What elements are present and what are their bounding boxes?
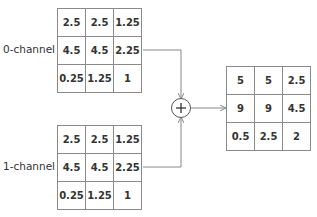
matrix-cell: 2.5	[86, 126, 114, 154]
matrix-cell: 2.25	[114, 154, 142, 182]
channel-1-matrix: 2.5 2.5 1.25 4.5 4.5 2.25 0.25 1.25 1	[57, 125, 142, 210]
matrix-cell: 4.5	[58, 154, 86, 182]
matrix-cell: 4.5	[86, 154, 114, 182]
matrix-cell: 2.5	[58, 126, 86, 154]
matrix-cell: 0.25	[58, 182, 86, 210]
output-matrix: 5 5 2.5 9 9 4.5 0.5 2.5 2	[226, 66, 311, 151]
matrix-cell: 0.25	[58, 65, 86, 93]
matrix-cell: 2.25	[114, 37, 142, 65]
matrix-cell: 4.5	[58, 37, 86, 65]
matrix-cell: 9	[255, 95, 283, 123]
matrix-cell: 2.5	[255, 123, 283, 151]
channel-0-matrix: 2.5 2.5 1.25 4.5 4.5 2.25 0.25 1.25 1	[57, 8, 142, 93]
matrix-cell: 2.5	[283, 67, 311, 95]
matrix-cell: 1	[114, 182, 142, 210]
matrix-cell: 1	[114, 65, 142, 93]
matrix-cell: 1.25	[114, 126, 142, 154]
matrix-cell: 9	[227, 95, 255, 123]
matrix-cell: 1.25	[86, 65, 114, 93]
matrix-cell: 4.5	[86, 37, 114, 65]
channel-1-label: 1-channel	[3, 160, 55, 172]
matrix-cell: 2.5	[86, 9, 114, 37]
matrix-cell: 1.25	[114, 9, 142, 37]
matrix-cell: 1.25	[86, 182, 114, 210]
matrix-cell: 5	[227, 67, 255, 95]
matrix-cell: 2	[283, 123, 311, 151]
matrix-cell: 4.5	[283, 95, 311, 123]
matrix-cell: 0.5	[227, 123, 255, 151]
matrix-cell: 5	[255, 67, 283, 95]
matrix-cell: 2.5	[58, 9, 86, 37]
channel-0-label: 0-channel	[3, 43, 55, 55]
sum-operator-icon	[172, 99, 191, 118]
